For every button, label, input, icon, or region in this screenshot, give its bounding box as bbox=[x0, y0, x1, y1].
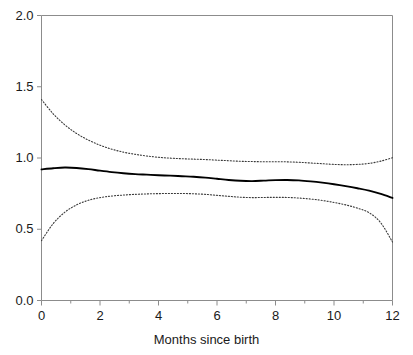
x-axis-tick-label: 12 bbox=[373, 309, 413, 322]
x-axis-tick-label: 4 bbox=[139, 309, 179, 322]
plot-area bbox=[0, 0, 413, 355]
series-lower-confidence-limit bbox=[42, 193, 393, 242]
series-upper-confidence-limit bbox=[42, 100, 393, 165]
data-series bbox=[42, 100, 393, 242]
x-axis-tick-label: 2 bbox=[80, 309, 120, 322]
y-axis-tick-label: 0.0 bbox=[0, 294, 34, 307]
y-axis-tick-label: 1.5 bbox=[0, 80, 34, 93]
x-axis-tick-label: 0 bbox=[22, 309, 62, 322]
axis-ticks bbox=[37, 16, 393, 306]
y-axis-tick-label: 0.5 bbox=[0, 222, 34, 235]
x-axis-tick-label: 8 bbox=[256, 309, 296, 322]
series-estimate bbox=[42, 168, 393, 198]
y-axis-tick-label: 2.0 bbox=[0, 9, 34, 22]
chart-container: 0.00.51.01.52.0 024681012 Months since b… bbox=[0, 0, 413, 355]
axis-frame bbox=[42, 16, 393, 301]
x-axis-tick-label: 10 bbox=[314, 309, 354, 322]
y-axis-tick-label: 1.0 bbox=[0, 151, 34, 164]
x-axis-title: Months since birth bbox=[0, 333, 413, 346]
x-axis-tick-label: 6 bbox=[197, 309, 237, 322]
